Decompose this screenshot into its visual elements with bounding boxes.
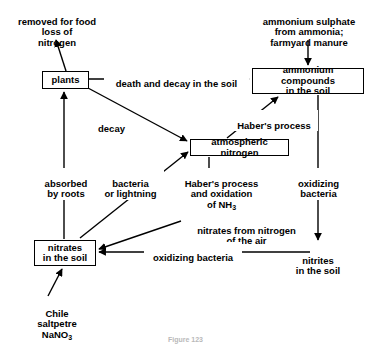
label-habers-process-text: Haber's process <box>237 120 311 131</box>
label-absorbed-by-roots-text: absorbed by roots <box>45 178 88 200</box>
label-decay-text: decay <box>98 123 125 134</box>
node-nitrates-in-the-soil-label: nitrates in the soil <box>43 243 87 264</box>
label-habers-process-oxidation-text: Haber's process and oxidation of NH <box>185 178 259 210</box>
label-habers-process: Haber's process <box>230 110 318 131</box>
label-oxidizing-bacteria-bottom-text: oxidizing bacteria <box>153 252 233 263</box>
label-chile-saltpetre-subscript: 3 <box>68 334 72 341</box>
label-death-and-decay-text: death and decay in the soil <box>116 78 237 89</box>
label-absorbed-by-roots: absorbed by roots <box>38 168 94 200</box>
label-oxidizing-bacteria-right: oxidizing bacteria <box>290 168 347 200</box>
label-ammonium-sulphate-source: ammonium sulphate from ammonia; farmyard… <box>254 6 364 48</box>
nitrogen-cycle-diagram: plants ammonium compounds in the soil at… <box>0 0 371 346</box>
node-plants-label: plants <box>52 75 80 86</box>
label-ammonium-sulphate-source-text: ammonium sulphate from ammonia; farmyard… <box>263 16 355 48</box>
node-plants[interactable]: plants <box>42 71 89 89</box>
label-habers-process-oxidation-subscript: 3 <box>232 204 236 211</box>
label-habers-process-oxidation: Haber's process and oxidation of NH3 <box>173 168 270 211</box>
node-atmospheric-nitrogen-label: atmospheric nitrogen <box>194 137 285 158</box>
label-death-and-decay: death and decay in the soil <box>104 68 249 89</box>
node-ammonium-compounds[interactable]: ammonium compounds in the soil <box>252 68 364 94</box>
label-oxidizing-bacteria-right-text: oxidizing bacteria <box>298 178 339 200</box>
label-nitrites-in-the-soil-text: nitrites in the soil <box>296 255 340 277</box>
label-decay: decay <box>92 113 131 134</box>
label-nitrites-in-the-soil: nitrites in the soil <box>286 245 350 277</box>
label-bacteria-or-lightning-text: bacteria or lightning <box>104 178 156 200</box>
node-ammonium-compounds-label: ammonium compounds in the soil <box>256 65 360 97</box>
label-bacteria-or-lightning: bacteria or lightning <box>97 168 164 200</box>
node-nitrates-in-the-soil[interactable]: nitrates in the soil <box>34 240 96 266</box>
node-atmospheric-nitrogen[interactable]: atmospheric nitrogen <box>190 139 289 156</box>
figure-caption-text: Figure 123 <box>168 336 203 343</box>
label-removed-for-food-text: removed for food loss of nitrogen <box>18 16 96 48</box>
edge-chile-saltpetre-to-nitrates <box>48 269 62 296</box>
label-removed-for-food: removed for food loss of nitrogen <box>5 6 109 48</box>
label-chile-saltpetre: Chile saltpetre NaNO3 <box>24 298 90 341</box>
label-oxidizing-bacteria-bottom: oxidizing bacteria <box>144 242 242 263</box>
